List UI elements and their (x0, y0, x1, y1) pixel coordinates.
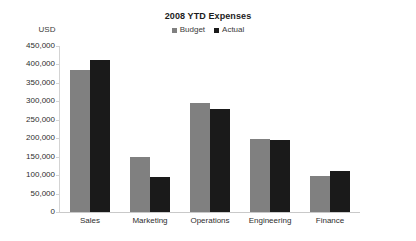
bar-budget[interactable] (250, 139, 270, 212)
bar-group (180, 46, 240, 212)
y-axis-tick-label: 300,000 (0, 97, 55, 105)
y-axis-tick-label: 0 (0, 208, 55, 216)
bar-actual[interactable] (90, 60, 110, 212)
legend-item-budget: Budget (172, 26, 205, 34)
bar-actual[interactable] (330, 171, 350, 212)
bar-group (300, 46, 360, 212)
bar-group (240, 46, 300, 212)
legend-label-actual: Actual (222, 26, 244, 34)
bar-budget[interactable] (310, 176, 330, 212)
y-axis-tick-label: 50,000 (0, 190, 55, 198)
y-axis-tick-label: 400,000 (0, 60, 55, 68)
y-axis-tick-mark (56, 212, 60, 213)
x-axis-line (59, 212, 360, 213)
x-axis-tick-label: Engineering (240, 217, 300, 225)
y-axis-tick-label: 150,000 (0, 153, 55, 161)
bar-group (60, 46, 120, 212)
legend-swatch-budget (172, 28, 177, 33)
chart-title: 2008 YTD Expenses (0, 11, 416, 21)
y-axis-tick-label: 200,000 (0, 134, 55, 142)
bar-budget[interactable] (190, 103, 210, 212)
bar-group (120, 46, 180, 212)
bar-budget[interactable] (70, 70, 90, 212)
y-axis-title: USD (30, 25, 64, 34)
bar-budget[interactable] (130, 157, 150, 212)
bar-actual[interactable] (210, 109, 230, 212)
x-axis-tick-label: Marketing (120, 217, 180, 225)
x-axis-tick-label: Sales (60, 217, 120, 225)
legend-swatch-actual (214, 28, 219, 33)
legend-label-budget: Budget (180, 26, 205, 34)
legend-item-actual: Actual (214, 26, 244, 34)
y-axis-tick-label: 250,000 (0, 116, 55, 124)
y-axis-tick-label: 450,000 (0, 42, 55, 50)
x-axis-tick-label: Finance (300, 217, 360, 225)
bar-actual[interactable] (270, 140, 290, 212)
y-axis-tick-label: 100,000 (0, 171, 55, 179)
x-axis-tick-label: Operations (180, 217, 240, 225)
chart-container: 2008 YTD Expenses Budget Actual USD 450,… (0, 0, 416, 241)
y-axis-tick-label: 350,000 (0, 79, 55, 87)
plot-area (60, 46, 360, 212)
bar-actual[interactable] (150, 177, 170, 212)
